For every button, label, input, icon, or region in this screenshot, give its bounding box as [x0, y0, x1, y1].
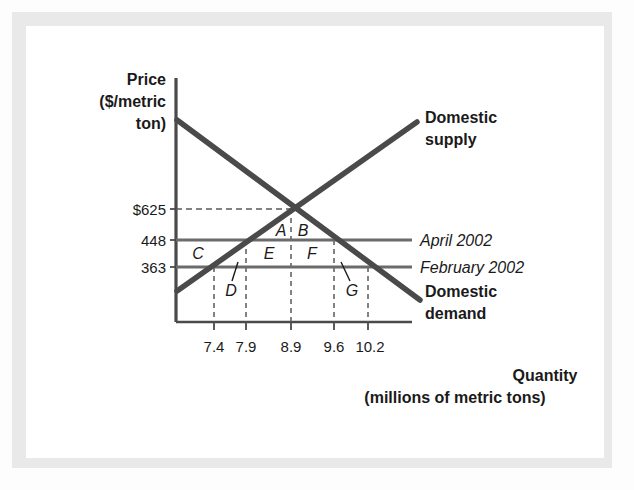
- figure-page: Price ($/metric ton) $625 448 363 7.4 7.…: [0, 0, 634, 490]
- price-label-448: 448: [141, 232, 166, 249]
- domestic-supply-label-line2: supply: [425, 131, 477, 148]
- february-2002-label: February 2002: [420, 259, 524, 276]
- x-axis-title-line2: (millions of metric tons): [364, 389, 545, 406]
- y-axis-title-line3: ton): [136, 115, 166, 132]
- quantity-label-7-9: 7.9: [236, 338, 257, 355]
- x-axis-title-line1: Quantity: [513, 367, 578, 384]
- supply-demand-chart: Price ($/metric ton) $625 448 363 7.4 7.…: [0, 0, 634, 490]
- region-label-c: C: [192, 245, 204, 262]
- quantity-label-10-2: 10.2: [355, 338, 384, 355]
- domestic-demand-label-line2: demand: [425, 305, 486, 322]
- leader-line-d: [232, 262, 238, 281]
- quantity-label-7-4: 7.4: [204, 338, 225, 355]
- price-label-625: $625: [133, 201, 166, 218]
- domestic-supply-label-line1: Domestic: [425, 109, 497, 126]
- domestic-demand-label-line1: Domestic: [425, 283, 497, 300]
- region-label-b: B: [298, 222, 309, 239]
- quantity-label-8-9: 8.9: [281, 338, 302, 355]
- region-label-f: F: [307, 245, 318, 262]
- chart-stage: Price ($/metric ton) $625 448 363 7.4 7.…: [0, 0, 634, 490]
- quantity-label-9-6: 9.6: [324, 338, 345, 355]
- region-label-a: A: [275, 222, 287, 239]
- region-label-g: G: [346, 282, 358, 299]
- region-label-d: D: [225, 282, 237, 299]
- region-label-e: E: [264, 245, 275, 262]
- y-axis-title-line1: Price: [127, 71, 166, 88]
- april-2002-label: April 2002: [419, 232, 492, 249]
- y-axis-title-line2: ($/metric: [99, 93, 166, 110]
- leader-line-g: [341, 262, 350, 281]
- price-label-363: 363: [141, 259, 166, 276]
